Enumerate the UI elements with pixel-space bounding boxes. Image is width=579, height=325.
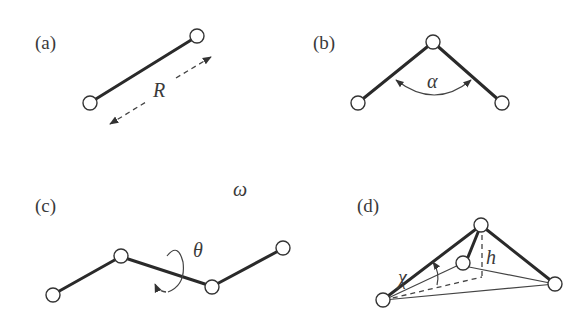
inversion-angle-symbol: χ	[396, 266, 408, 289]
atom	[46, 288, 60, 302]
height-symbol: h	[486, 246, 496, 268]
force-field-terms-diagram: (a) R (b) α (c) ω θ (d)	[0, 0, 579, 325]
atom	[114, 249, 128, 263]
panel-d-label: (d)	[357, 195, 379, 217]
panel-b-angle-bend: (b) α	[313, 32, 509, 110]
atom	[190, 29, 204, 43]
atom	[456, 256, 470, 270]
atom	[351, 96, 365, 110]
atom	[205, 280, 219, 294]
torsion-angle-symbol: θ	[193, 239, 203, 261]
panel-b-label: (b)	[313, 32, 335, 54]
bond-angle-symbol: α	[427, 70, 438, 92]
atom	[426, 35, 440, 49]
panel-c-label: (c)	[35, 195, 56, 217]
panel-a-label: (a)	[35, 32, 56, 54]
panel-a-bond-stretch: (a) R	[35, 29, 211, 124]
panel-d-inversion: (d) χ h	[357, 195, 562, 307]
atom	[376, 293, 390, 307]
atom	[548, 277, 562, 291]
omega-symbol: ω	[233, 178, 247, 200]
atom	[276, 241, 290, 255]
atom	[495, 96, 509, 110]
bond-length-symbol: R	[152, 79, 165, 101]
atom	[474, 218, 488, 232]
panel-c-torsion: (c) ω θ	[35, 178, 290, 302]
atom	[83, 96, 97, 110]
